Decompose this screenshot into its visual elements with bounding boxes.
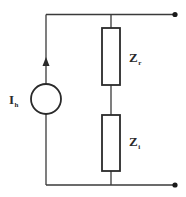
top-terminal [172,12,177,17]
circuit-diagram: Ih Zr Zi [0,0,186,197]
source-label: Ih [9,92,19,109]
current-source [31,84,61,114]
impedance-lower-label: Zi [129,134,140,151]
impedance-upper [102,28,120,85]
current-direction-arrow-icon [43,57,50,66]
bottom-terminal [172,182,177,187]
impedance-upper-label: Zr [129,50,141,67]
impedance-lower [102,115,120,171]
